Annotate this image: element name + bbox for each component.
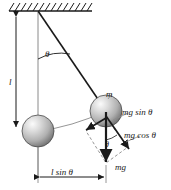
ceiling-hatching xyxy=(9,3,92,11)
label-mass: m xyxy=(106,90,113,99)
pendulum-bob-rest xyxy=(22,115,54,147)
label-angle-theta: θ xyxy=(45,50,49,59)
label-length: l xyxy=(9,78,12,87)
dimension-extension-lines xyxy=(38,147,106,183)
pendulum-diagram: l θ m mg sin θ mg cos θ mg θ l sin θ xyxy=(0,0,171,190)
label-force-angle-theta: θ xyxy=(105,141,109,149)
pendulum-string xyxy=(38,11,106,111)
label-l-sin-theta: l sin θ xyxy=(51,168,73,177)
label-mg-cos-theta: mg cos θ xyxy=(124,131,156,140)
angle-arc xyxy=(38,53,70,59)
label-mg: mg xyxy=(115,163,126,172)
diagram-canvas xyxy=(0,0,171,190)
label-mg-sin-theta: mg sin θ xyxy=(122,108,152,117)
